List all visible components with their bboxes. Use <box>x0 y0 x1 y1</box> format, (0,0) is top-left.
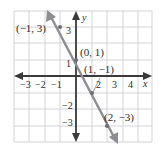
coordinate-plane-figure: (−1, 3) (0, 1) (1, −1) (2, −3) −3 −2 −1 … <box>0 0 160 148</box>
point-label-0-1: (0, 1) <box>80 46 104 58</box>
x-tick-label-neg3: −3 <box>20 79 31 90</box>
point-label-neg1-3: (−1, 3) <box>16 22 46 34</box>
x-axis-label: x <box>143 78 147 89</box>
point-label-2-neg3: (2, −3) <box>104 111 134 123</box>
y-tick-label-1: 1 <box>66 58 71 69</box>
y-tick-label-neg3: −3 <box>62 117 73 128</box>
y-tick-label-3: 3 <box>66 25 71 36</box>
x-tick-label-4: 4 <box>128 79 133 90</box>
point-marker-2-neg3 <box>105 124 109 128</box>
y-axis-label: y <box>82 12 86 23</box>
x-tick-label-neg2: −2 <box>35 79 46 90</box>
x-tick-label-2: 2 <box>96 79 101 90</box>
x-tick-label-3: 3 <box>112 79 117 90</box>
y-tick-label-neg2: −2 <box>62 100 73 111</box>
point-marker-neg1-3 <box>58 25 62 29</box>
point-marker-0-1 <box>74 58 78 62</box>
point-label-1-neg1: (1, −1) <box>84 63 114 75</box>
x-tick-label-neg1: −1 <box>51 79 62 90</box>
